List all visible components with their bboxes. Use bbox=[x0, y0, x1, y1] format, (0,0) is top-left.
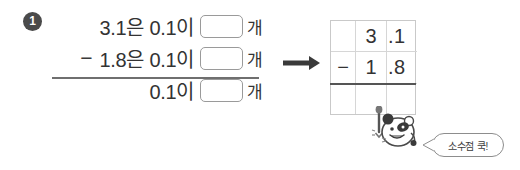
grid-cell-2-1[interactable]: − bbox=[331, 52, 356, 84]
grid-subtraction-rule bbox=[330, 83, 416, 85]
subtraction-rule bbox=[52, 77, 259, 79]
arrow-right-icon bbox=[283, 55, 321, 71]
grid-cell-3-1[interactable] bbox=[331, 84, 356, 114]
equation-unit-2: 개 bbox=[247, 46, 263, 71]
grid-cell-2-3[interactable]: .8 bbox=[387, 52, 417, 84]
equation-row-1: 3.1은 0.1이 개 bbox=[48, 10, 263, 42]
equation-text-2: 1.8은 0.1이 bbox=[100, 44, 194, 73]
vertical-computation-grid: 3 .1 − 1 .8 bbox=[330, 20, 416, 115]
mascot-character-icon bbox=[366, 106, 428, 156]
speech-bubble-text: 소수점 쿡! bbox=[432, 133, 504, 157]
grid-cell-1-3[interactable]: .1 bbox=[387, 21, 417, 52]
answer-blank-2[interactable] bbox=[200, 47, 243, 70]
equation-text-3: 0.1이 bbox=[149, 76, 194, 105]
worksheet-root: 1 3.1은 0.1이 개 − 1.8은 0.1이 개 0.1이 개 bbox=[0, 0, 520, 170]
equation-sentences: 3.1은 0.1이 개 − 1.8은 0.1이 개 0.1이 개 bbox=[48, 10, 263, 106]
equation-unit-3: 개 bbox=[247, 78, 263, 103]
speech-bubble: 소수점 쿡! bbox=[432, 133, 504, 157]
grid-cell-1-1[interactable] bbox=[331, 21, 356, 52]
equation-text-1: 3.1은 0.1이 bbox=[100, 12, 194, 41]
problem-number-badge: 1 bbox=[23, 12, 42, 31]
answer-blank-1[interactable] bbox=[200, 15, 243, 38]
grid-cell-1-2[interactable]: 3 bbox=[356, 21, 387, 52]
grid-cell-2-2[interactable]: 1 bbox=[356, 52, 387, 84]
equation-unit-1: 개 bbox=[247, 14, 263, 39]
answer-blank-3[interactable] bbox=[200, 79, 243, 102]
equation-operator-2: − bbox=[80, 46, 92, 70]
equation-row-2: − 1.8은 0.1이 개 bbox=[48, 42, 263, 74]
